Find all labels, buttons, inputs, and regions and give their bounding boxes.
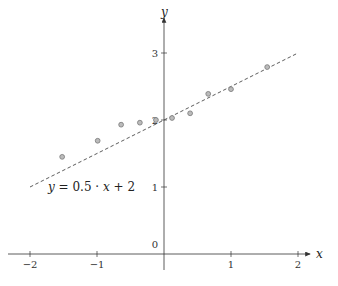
data-point	[95, 138, 100, 143]
data-point	[119, 122, 124, 127]
x-tick-label: 2	[295, 259, 301, 270]
x-tick-label: −2	[23, 259, 38, 270]
y-tick-label: 3	[152, 48, 158, 59]
data-point	[265, 65, 270, 70]
data-point	[154, 118, 159, 123]
axes: −2−1120123	[8, 18, 310, 270]
y-axis-label: y	[160, 5, 168, 19]
data-point	[170, 116, 175, 121]
x-axis-label: x	[316, 247, 323, 261]
y-tick-label: 0	[152, 239, 158, 250]
data-point	[188, 111, 193, 116]
data-point	[137, 120, 142, 125]
x-tick-label: 1	[228, 259, 234, 270]
y-tick-label: 1	[152, 182, 158, 193]
data-point	[206, 91, 211, 96]
equation-label: y = 0.5 · x + 2	[47, 180, 135, 194]
chart-canvas: −2−1120123 xyy = 0.5 · x + 2	[0, 0, 338, 286]
scatter-points	[60, 65, 270, 160]
x-tick-label: −1	[90, 259, 105, 270]
data-point	[229, 87, 234, 92]
labels: xyy = 0.5 · x + 2	[47, 5, 323, 261]
data-point	[60, 154, 65, 159]
